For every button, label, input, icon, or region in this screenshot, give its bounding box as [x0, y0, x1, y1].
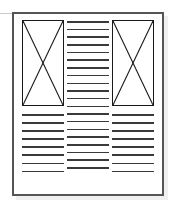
- text-block-right: [112, 114, 154, 179]
- text-line: [67, 44, 109, 46]
- column-right[interactable]: [112, 20, 154, 179]
- text-line: [67, 144, 109, 146]
- text-line: [67, 83, 109, 85]
- text-line: [67, 75, 109, 77]
- text-line: [112, 122, 154, 124]
- column-grid: [22, 20, 154, 188]
- text-line: [67, 129, 109, 131]
- text-line: [22, 130, 64, 132]
- text-line: [22, 114, 64, 116]
- text-line: [67, 136, 109, 138]
- text-line: [22, 171, 64, 173]
- image-placeholder-right[interactable]: [112, 20, 154, 106]
- text-block-center: [67, 21, 109, 175]
- column-left[interactable]: [22, 20, 64, 179]
- text-line: [67, 29, 109, 31]
- text-line: [67, 106, 109, 108]
- crossed-box-icon: [23, 21, 63, 105]
- text-line: [67, 98, 109, 100]
- text-line: [67, 21, 109, 23]
- text-line: [67, 159, 109, 161]
- text-line: [22, 122, 64, 124]
- text-line: [112, 130, 154, 132]
- text-line: [22, 154, 64, 156]
- text-line: [112, 171, 154, 173]
- image-placeholder-left[interactable]: [22, 20, 64, 106]
- layout-canvas: [0, 0, 178, 215]
- text-line: [67, 152, 109, 154]
- text-line: [112, 146, 154, 148]
- page-sheet[interactable]: [12, 12, 164, 196]
- text-line: [67, 52, 109, 54]
- text-line: [22, 138, 64, 140]
- text-block-left: [22, 114, 64, 179]
- text-line: [67, 36, 109, 38]
- text-line: [67, 67, 109, 69]
- text-line: [67, 113, 109, 115]
- text-line: [22, 163, 64, 165]
- text-line: [67, 121, 109, 123]
- text-line: [112, 138, 154, 140]
- text-line: [67, 167, 109, 169]
- text-line: [22, 146, 64, 148]
- text-line: [67, 59, 109, 61]
- text-line: [112, 114, 154, 116]
- text-line: [67, 90, 109, 92]
- column-center[interactable]: [67, 20, 109, 175]
- text-line: [112, 163, 154, 165]
- text-line: [112, 154, 154, 156]
- crossed-box-icon: [113, 21, 153, 105]
